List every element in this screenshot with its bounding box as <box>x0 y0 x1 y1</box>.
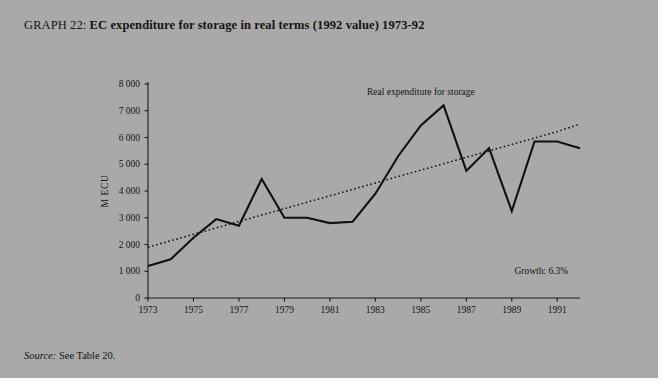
y-axis-tick-label: 1 000 <box>119 266 141 276</box>
series-label-annotation: Real expenditure for storage <box>367 87 475 97</box>
x-axis-tick-label: 1987 <box>457 305 476 315</box>
y-axis-title: M ECU <box>100 175 110 208</box>
y-axis-ticks: 01 0002 0003 0004 0005 0006 0007 0008 00… <box>119 79 148 303</box>
source-label: Source: <box>24 350 56 361</box>
y-axis-tick-label: 0 <box>135 293 140 303</box>
x-axis: 1973197519771979198119831985198719891991 <box>139 298 581 315</box>
trend-line-series <box>148 124 580 247</box>
y-axis-tick-label: 6 000 <box>119 133 141 143</box>
y-axis-tick-label: 3 000 <box>119 213 141 223</box>
x-axis-tick-label: 1989 <box>502 305 521 315</box>
x-axis-tick-label: 1977 <box>229 305 248 315</box>
x-axis-tick-label: 1979 <box>275 305 294 315</box>
x-axis-tick-label: 1985 <box>411 305 430 315</box>
x-axis-tick-label: 1981 <box>320 305 339 315</box>
y-axis: 01 0002 0003 0004 0005 0006 0007 0008 00… <box>119 79 148 303</box>
y-axis-tick-label: 2 000 <box>119 240 141 250</box>
figure-panel: GRAPH 22: EC expenditure for storage in … <box>0 0 658 378</box>
y-axis-tick-label: 5 000 <box>119 159 141 169</box>
y-axis-tick-label: 8 000 <box>119 79 141 89</box>
source-note: Source: See Table 20. <box>24 350 115 361</box>
expenditure-line-series <box>148 105 580 266</box>
x-axis-tick-label: 1983 <box>366 305 385 315</box>
y-axis-tick-label: 4 000 <box>119 186 141 196</box>
source-reference: See Table 20. <box>59 350 116 361</box>
figure-page: GRAPH 22: EC expenditure for storage in … <box>0 0 672 392</box>
x-axis-tick-label: 1975 <box>184 305 203 315</box>
y-axis-tick-label: 7 000 <box>119 106 141 116</box>
x-axis-ticks: 1973197519771979198119831985198719891991 <box>139 298 568 315</box>
x-axis-tick-label: 1991 <box>548 305 567 315</box>
growth-label-annotation: Growth: 6.3% <box>514 266 568 276</box>
x-axis-tick-label: 1973 <box>139 305 158 315</box>
line-chart: 01 0002 0003 0004 0005 0006 0007 0008 00… <box>0 0 658 378</box>
